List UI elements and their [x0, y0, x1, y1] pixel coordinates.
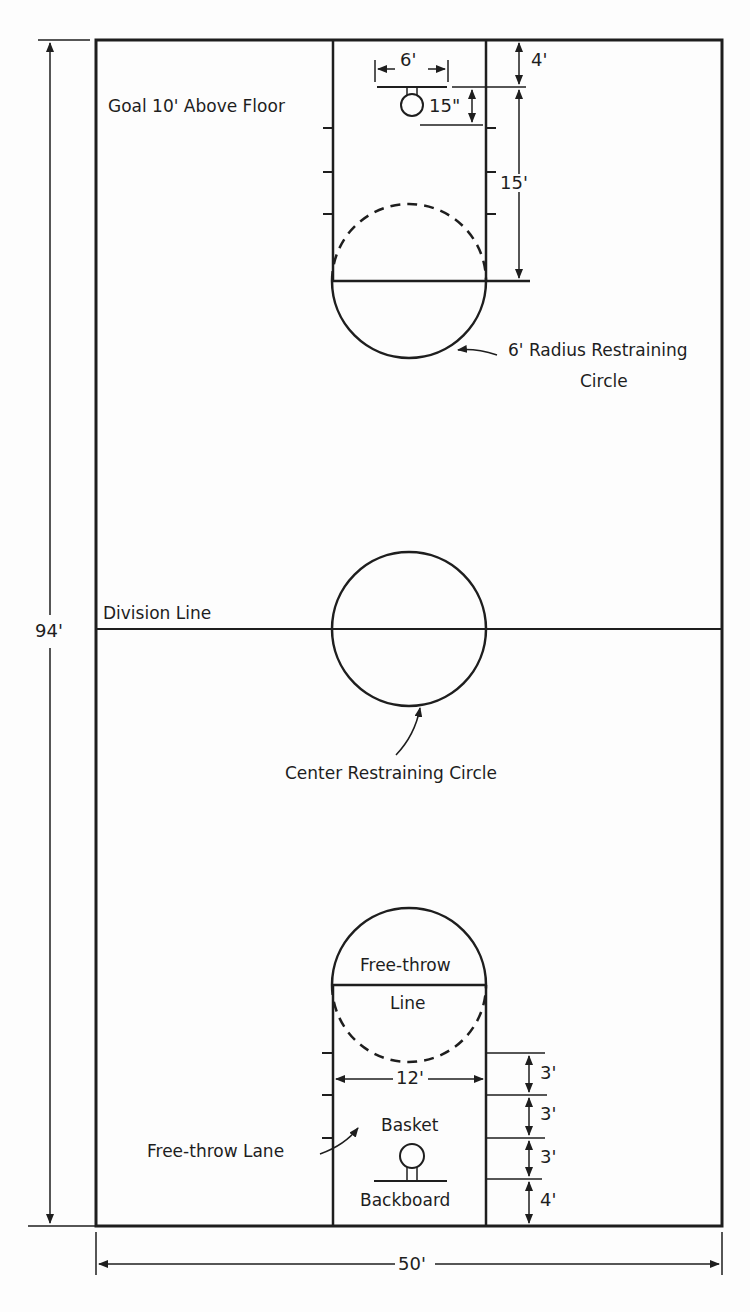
court-width-dim: 50'	[398, 1255, 426, 1273]
freethrow-distance-dim: 15'	[500, 174, 528, 192]
court-boundary	[96, 40, 722, 1226]
freethrow-lane-label: Free-throw Lane	[147, 1143, 284, 1160]
lane-width-dim: 12'	[396, 1069, 424, 1087]
court-length-dim: 94'	[35, 622, 63, 640]
lane-space-1: 3'	[540, 1064, 556, 1082]
court-diagram: Goal 10' Above Floor 6' 15" 4' 15' 6' Ra…	[0, 0, 750, 1312]
radius-circle-label-1: 6' Radius Restraining	[508, 342, 688, 359]
basket-offset-dim: 15"	[429, 97, 460, 115]
basket-label: Basket	[381, 1117, 438, 1134]
basket-endline-dim: 4'	[531, 51, 547, 69]
lane-space-3: 3'	[540, 1148, 556, 1166]
lane-space-4: 4'	[540, 1191, 556, 1209]
backboard-width-dim: 6'	[400, 51, 416, 69]
freethrow-line-label-bottom: Line	[390, 995, 425, 1012]
top-restraining-circle-dashed	[332, 204, 486, 281]
goal-label: Goal 10' Above Floor	[108, 98, 285, 115]
court-lines	[0, 0, 750, 1312]
top-restraining-circle-solid	[332, 281, 486, 358]
top-basket	[401, 94, 423, 116]
radius-circle-label-2: Circle	[580, 373, 628, 390]
backboard-label: Backboard	[360, 1192, 450, 1209]
bottom-basket	[400, 1144, 424, 1168]
freethrow-line-label-top: Free-throw	[360, 957, 451, 974]
division-line-label: Division Line	[103, 605, 211, 622]
center-circle-label: Center Restraining Circle	[285, 765, 497, 782]
lane-space-2: 3'	[540, 1105, 556, 1123]
